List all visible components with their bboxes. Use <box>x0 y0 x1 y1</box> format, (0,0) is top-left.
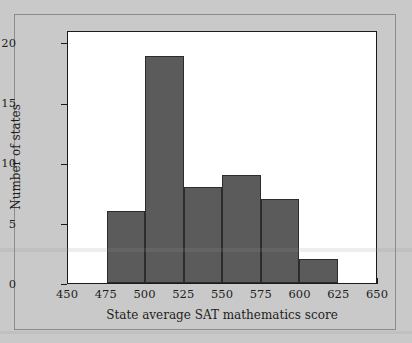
x-tick-label: 650 <box>366 289 388 301</box>
y-tick-label: 5 <box>9 219 16 231</box>
y-axis-label: Number of states <box>9 104 23 210</box>
x-tick-mark <box>377 278 378 284</box>
y-tick-mark <box>61 284 67 285</box>
x-tick-label: 450 <box>56 289 78 301</box>
histogram-bar <box>261 199 300 283</box>
x-tick-label: 625 <box>327 289 349 301</box>
x-tick-label: 525 <box>172 289 194 301</box>
histogram-bar <box>184 187 223 283</box>
y-tick-label: 20 <box>1 38 16 50</box>
histogram-bar <box>107 211 146 283</box>
histogram-bars <box>68 32 376 283</box>
x-axis-label: State average SAT mathematics score <box>67 308 377 322</box>
x-tick-label: 500 <box>134 289 156 301</box>
x-tick-label: 550 <box>211 289 233 301</box>
x-tick-label: 475 <box>95 289 117 301</box>
histogram-bar <box>145 56 184 283</box>
x-tick-label: 600 <box>289 289 311 301</box>
plot-frame <box>67 31 377 284</box>
x-tick-label: 575 <box>250 289 272 301</box>
figure: 20 15 10 5 0 450 475 500 525 550 575 600… <box>0 0 412 343</box>
histogram-bar <box>299 259 338 283</box>
histogram-bar <box>222 175 261 283</box>
scan-artifact <box>0 331 412 334</box>
y-tick-label: 0 <box>9 279 16 291</box>
